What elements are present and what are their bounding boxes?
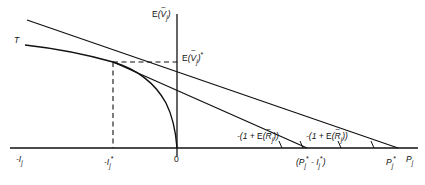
x-axis-label: Pj [406, 155, 413, 166]
origin-label: 0 [174, 155, 179, 164]
slope-tick-lower-left [279, 141, 282, 148]
y-axis-label: E(~Vj) [152, 10, 170, 21]
curve-t-label: T [14, 36, 19, 45]
slope-tick-upper-right [371, 141, 374, 148]
x-label-pj-star: Pj* [386, 155, 396, 169]
slope-label-upper: -(1 + E(~Rj)) [306, 132, 348, 143]
x-label-pj-star-minus-ij-star: (Pj* - Ij*) [296, 155, 326, 169]
tangent-market-line [27, 20, 398, 148]
y-star-label: E(~Vj)* [182, 51, 203, 65]
figure-canvas [0, 0, 425, 185]
curve-T [25, 45, 177, 148]
investment-frontier-figure: E(~Vj) E(~Vj)* T -Ij -Ij* 0 -(1 + E(~Rj)… [0, 0, 425, 185]
slope-label-lower: -(1 + E(~Rj)) [237, 132, 279, 143]
x-label-minus-Ij-star: -Ij* [104, 155, 113, 169]
x-label-minus-Ij: -Ij [16, 155, 23, 166]
